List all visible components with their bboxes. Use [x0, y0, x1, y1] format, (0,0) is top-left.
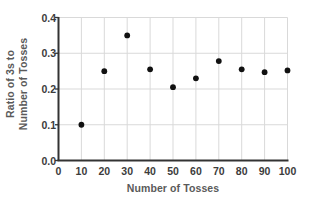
- x-tick-label: 30: [121, 166, 133, 177]
- x-axis-title: Number of Tosses: [58, 182, 288, 194]
- x-tick-label: 80: [236, 166, 248, 177]
- x-tick-label: 0: [56, 166, 62, 177]
- x-tick-label: 40: [144, 166, 156, 177]
- x-tick-label: 90: [259, 166, 271, 177]
- x-axis-tick-labels: 0102030405060708090100: [0, 0, 311, 202]
- x-tick-label: 20: [98, 166, 110, 177]
- x-tick-label: 10: [76, 166, 88, 177]
- x-tick-label: 60: [190, 166, 202, 177]
- x-tick-label: 100: [279, 166, 297, 177]
- x-tick-label: 70: [213, 166, 225, 177]
- x-tick-label: 50: [167, 166, 179, 177]
- scatter-chart: Ratio of 3s to Number of Tosses 0.00.10.…: [0, 0, 311, 202]
